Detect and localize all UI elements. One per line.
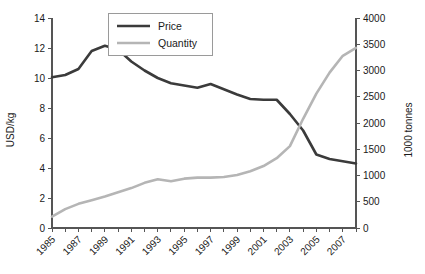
left-axis-tick-label: 14 xyxy=(34,13,46,24)
right-axis-tick-label: 500 xyxy=(363,196,380,207)
right-axis-tick-label: 3500 xyxy=(363,39,386,50)
left-axis-title: USD/kg xyxy=(5,113,16,147)
right-axis-tick-label: 3000 xyxy=(363,65,386,76)
right-axis-tick-label: 1000 xyxy=(363,170,386,181)
left-axis-tick-label: 10 xyxy=(34,73,46,84)
right-axis-tick-label: 2000 xyxy=(363,118,386,129)
line-chart: 02468101214 0500100015002000250030003500… xyxy=(0,0,425,274)
left-axis-tick-label: 12 xyxy=(34,43,46,54)
left-axis-tick-label: 0 xyxy=(39,223,45,234)
left-axis-tick-label: 4 xyxy=(39,163,45,174)
right-axis-title: 1000 tonnes xyxy=(403,102,414,157)
left-axis-tick-label: 8 xyxy=(39,103,45,114)
right-axis-tick-label: 1500 xyxy=(363,144,386,155)
legend-label-quantity: Quantity xyxy=(158,37,198,49)
right-axis-tick-label: 4000 xyxy=(363,13,386,24)
left-axis-tick-label: 6 xyxy=(39,133,45,144)
chart-container: 02468101214 0500100015002000250030003500… xyxy=(0,0,425,274)
right-axis-tick-label: 0 xyxy=(363,223,369,234)
legend-label-price: Price xyxy=(158,20,182,32)
chart-legend: PriceQuantity xyxy=(108,13,212,55)
left-axis-tick-label: 2 xyxy=(39,193,45,204)
right-axis-tick-label: 2500 xyxy=(363,91,386,102)
